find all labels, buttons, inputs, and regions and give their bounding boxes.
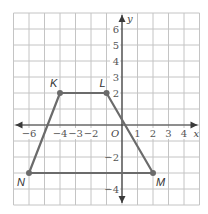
grid xyxy=(14,13,200,205)
x-tick-label: −2 xyxy=(84,128,99,139)
x-tick-label: 4 xyxy=(181,128,187,139)
origin-label: O xyxy=(111,128,119,139)
x-axis-label: x xyxy=(194,128,200,139)
x-tick-label: 2 xyxy=(150,128,156,139)
vertex-label-n: N xyxy=(17,176,25,188)
y-tick-label: 4 xyxy=(113,56,119,67)
y-axis-label: y xyxy=(126,13,133,24)
y-tick-label: 6 xyxy=(113,24,119,35)
x-tick-label: −4 xyxy=(53,128,68,139)
vertex-label-k: K xyxy=(50,77,58,89)
vertex-point-n xyxy=(26,170,32,176)
vertex-label-m: M xyxy=(156,176,166,188)
x-tick-label: −3 xyxy=(68,128,83,139)
y-tick-label: −2 xyxy=(104,152,119,163)
coordinate-plane: xyO−6−4−3−2123465432−2−4 KLMN xyxy=(0,0,208,214)
y-axis-up-arrow-icon xyxy=(119,15,126,22)
y-axis-down-arrow-icon xyxy=(119,196,126,203)
vertex-point-l xyxy=(104,90,110,96)
x-tick-label: 3 xyxy=(165,128,171,139)
y-tick-label: −4 xyxy=(104,184,119,195)
vertex-label-l: L xyxy=(100,77,106,89)
y-tick-label: 5 xyxy=(113,40,119,51)
y-tick-label: 2 xyxy=(113,88,119,99)
y-tick-label: 3 xyxy=(113,72,119,83)
x-tick-label: 1 xyxy=(134,128,140,139)
x-tick-label: −6 xyxy=(22,128,37,139)
tick-labels: xyO−6−4−3−2123465432−2−4 xyxy=(22,13,200,195)
vertex-point-k xyxy=(57,90,63,96)
